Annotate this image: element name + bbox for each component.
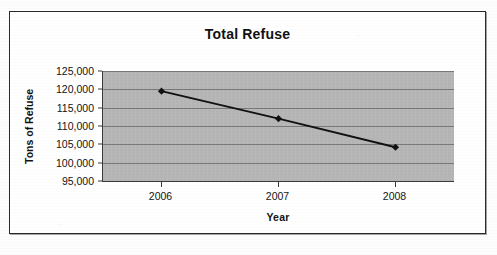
x-axis-tick-mark	[395, 182, 396, 187]
plot-area	[102, 71, 454, 182]
data-point-marker	[392, 144, 399, 151]
y-axis-tick-label: 100,000	[56, 157, 94, 169]
x-axis-tick-label: 2008	[383, 190, 406, 202]
x-axis-title: Year	[102, 211, 454, 223]
y-axis-tick-label: 105,000	[56, 138, 94, 150]
x-axis-tick-label: 2006	[149, 190, 172, 202]
y-axis-title: Tons of Refuse	[22, 68, 36, 184]
y-axis-tick-label: 125,000	[56, 65, 94, 77]
y-axis-tick-label: 120,000	[56, 83, 94, 95]
y-axis-tick-label: 110,000	[57, 120, 94, 132]
scanned-page: Total Refuse Tons of Refuse 125,000120,0…	[0, 0, 497, 255]
y-axis-tick-label: 95,000	[62, 175, 94, 187]
chart-title: Total Refuse	[10, 26, 485, 42]
x-axis-tick-labels: 200620072008	[102, 190, 454, 206]
x-axis-tick-marks	[102, 182, 454, 187]
x-axis-tick-label: 2007	[266, 190, 289, 202]
x-axis-tick-mark	[161, 182, 162, 187]
data-point-marker	[275, 115, 282, 122]
y-axis-tick-labels: 125,000120,000115,000110,000105,000100,0…	[40, 64, 98, 188]
x-axis-tick-mark	[278, 182, 279, 187]
data-point-marker	[158, 88, 165, 95]
y-axis-tick-label: 115,000	[57, 102, 94, 114]
data-series-layer	[103, 71, 454, 181]
chart-frame: Total Refuse Tons of Refuse 125,000120,0…	[9, 11, 486, 234]
